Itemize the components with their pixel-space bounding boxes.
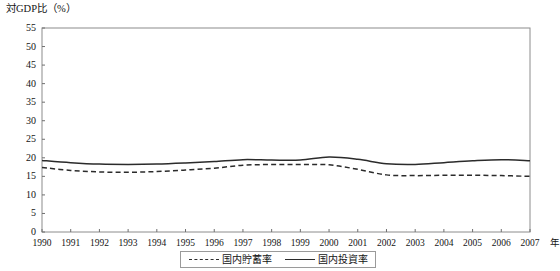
y-axis-tick-label: 50	[10, 42, 36, 52]
y-axis-tick-label: 35	[10, 97, 36, 107]
legend-item-savings: 国内貯蓄率	[189, 254, 272, 265]
y-axis-tick-label: 10	[10, 190, 36, 200]
y-axis-tick-label: 20	[10, 153, 36, 163]
y-axis-tick-label: 15	[10, 171, 36, 181]
y-axis-tick-label: 40	[10, 79, 36, 89]
y-axis-tick-label: 55	[10, 23, 36, 33]
legend-item-investment: 国内投資率	[285, 254, 368, 265]
legend-label-investment: 国内投資率	[318, 254, 368, 265]
y-axis-tick-label: 0	[10, 227, 36, 237]
y-axis-tick-label: 45	[10, 60, 36, 70]
legend-swatch-solid-icon	[285, 258, 315, 261]
y-axis-tick-label: 30	[10, 116, 36, 126]
legend-swatch-dashed-icon	[189, 258, 219, 261]
chart-axis-title: 対GDP比（%）	[6, 3, 76, 15]
chart-legend: 国内貯蓄率 国内投資率	[180, 251, 376, 268]
x-axis-tick-label: 2007	[510, 238, 550, 248]
legend-label-savings: 国内貯蓄率	[222, 254, 272, 265]
x-axis-unit-label: 年	[550, 238, 560, 248]
y-axis-tick-label: 25	[10, 134, 36, 144]
y-axis-tick-label: 5	[10, 208, 36, 218]
